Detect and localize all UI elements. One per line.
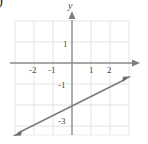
- y-tick-label-neg1: -1: [58, 81, 66, 90]
- x-tick-label-2: 2: [107, 66, 112, 75]
- y-axis: [69, 11, 76, 135]
- y-tick-label-neg3: -3: [58, 117, 66, 126]
- graph-figure: ) y: [0, 0, 148, 144]
- x-tick-label-neg1: -1: [48, 66, 56, 75]
- x-tick-label-1: 1: [89, 66, 94, 75]
- coordinate-plane: [0, 0, 148, 144]
- y-tick-label-1: 1: [63, 40, 68, 49]
- x-tick-label-neg2: -2: [29, 66, 37, 75]
